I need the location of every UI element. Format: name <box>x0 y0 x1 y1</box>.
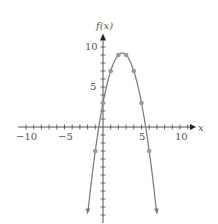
x-axis-arrow-icon <box>190 124 196 130</box>
data-point <box>108 69 113 74</box>
x-axis-label: x <box>198 122 204 133</box>
data-point <box>132 69 137 74</box>
curve-arrow-icon <box>154 208 158 214</box>
x-tick-label-neg10: −10 <box>16 131 37 142</box>
y-axis-arrow-icon <box>100 34 106 41</box>
parabola-curve <box>86 53 159 214</box>
x-tick-label-5: 5 <box>139 131 145 142</box>
data-point <box>116 53 121 58</box>
axes <box>18 34 196 223</box>
curve-arrow-icon <box>86 208 90 214</box>
parabola-graph: f(x) x −10 −5 5 10 5 10 <box>0 0 218 224</box>
x-tick-label-neg5: −5 <box>58 131 73 142</box>
data-point <box>101 101 106 106</box>
data-point <box>139 101 144 106</box>
y-tick-label-5: 5 <box>90 81 96 92</box>
y-tick-label-10: 10 <box>85 41 98 52</box>
data-point <box>93 149 98 154</box>
y-axis-label: f(x) <box>95 20 113 31</box>
data-point <box>124 53 129 58</box>
x-tick-label-10: 10 <box>175 131 188 142</box>
data-point <box>147 149 152 154</box>
